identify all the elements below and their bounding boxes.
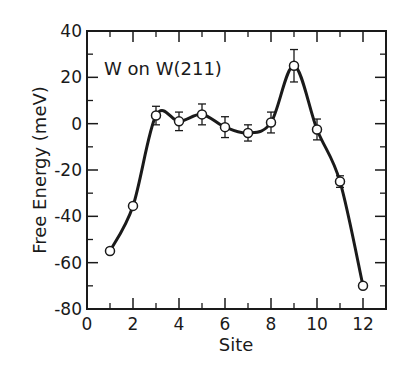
open-circle-marker [244,128,253,137]
open-circle-marker [221,123,230,132]
y-axis-title: Free Energy (meV) [29,86,50,254]
open-circle-marker [175,117,184,126]
open-circle-marker [267,118,276,127]
y-tick-label: 40 [60,21,82,41]
chart-annotation: W on W(211) [104,58,222,79]
fit-line [110,66,363,286]
data-point [244,125,253,141]
data-point [198,104,207,125]
data-point [290,50,299,82]
data-point [175,112,184,131]
y-tick-label: 20 [60,67,82,87]
y-tick-label: -60 [54,253,82,273]
x-tick-label: 2 [128,314,139,334]
x-tick-label: 10 [306,314,328,334]
open-circle-marker [313,125,322,134]
data-points [106,50,368,291]
x-tick-label: 6 [220,314,231,334]
fit-curve [110,66,363,286]
x-tick-label: 12 [352,314,374,334]
open-circle-marker [336,177,345,186]
open-circle-marker [129,201,138,210]
free-energy-chart: 02468101240200-20-40-60-80 W on W(211) S… [0,0,410,368]
y-tick-label: 0 [71,114,82,134]
x-axis-title: Site [219,334,254,355]
open-circle-marker [152,111,161,120]
x-tick-label: 4 [174,314,185,334]
x-tick-label: 8 [266,314,277,334]
data-point [129,201,138,210]
data-point [359,281,368,290]
data-point [106,247,115,256]
open-circle-marker [290,61,299,70]
open-circle-marker [198,110,207,119]
y-tick-label: -20 [54,160,82,180]
y-tick-label: -80 [54,299,82,319]
data-point [336,176,345,188]
open-circle-marker [359,281,368,290]
open-circle-marker [106,247,115,256]
data-point [221,117,230,138]
y-tick-label: -40 [54,206,82,226]
x-tick-label: 0 [82,314,93,334]
